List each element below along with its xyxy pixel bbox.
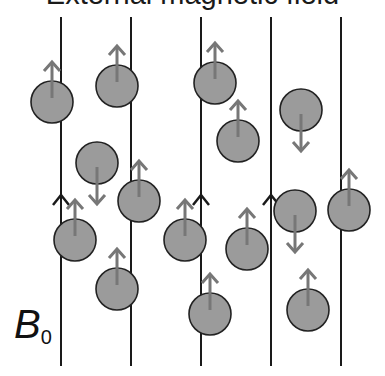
particle	[31, 62, 73, 123]
field-label-b0: B0	[14, 302, 52, 347]
particle	[328, 170, 370, 231]
particle	[189, 274, 231, 335]
particle	[280, 89, 322, 151]
spin-alignment-diagram	[0, 0, 385, 376]
particle	[217, 101, 259, 162]
particle	[274, 190, 316, 252]
particle	[76, 142, 118, 204]
particle	[164, 200, 206, 261]
particle	[287, 270, 329, 331]
particle	[226, 209, 268, 270]
particle	[118, 161, 160, 222]
